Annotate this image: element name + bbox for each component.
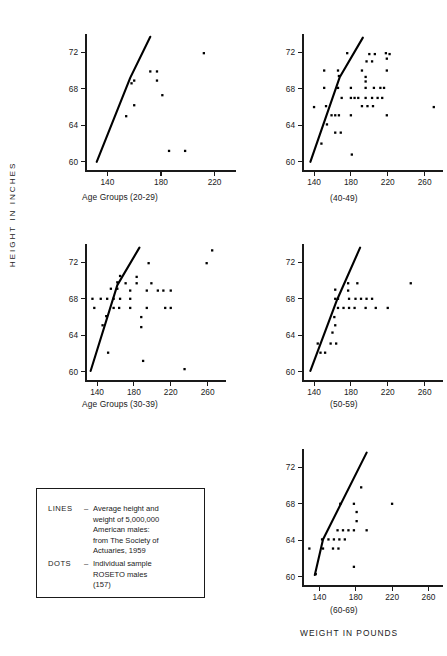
panel-40-49-ytick-label-68: 68	[286, 84, 296, 94]
panel-60-69-ytick-label-64: 64	[286, 535, 296, 545]
panel-40-49-data-point	[371, 60, 373, 62]
panel-20-29-xtick-label-220: 220	[208, 177, 222, 187]
panel-30-39-data-point	[110, 288, 112, 290]
panel-60-69-ytick-label-60: 60	[286, 572, 296, 582]
panel-60-69-data-point	[327, 538, 329, 540]
panel-40-49-data-point	[386, 69, 388, 71]
panel-30-39-data-point	[136, 282, 138, 284]
panel-50-59-axes	[303, 244, 443, 381]
panel-20-29-plot: 60646872140180220	[60, 28, 240, 193]
panel-30-39-ytick-label-60: 60	[69, 367, 79, 377]
panel-50-59-data-point	[364, 307, 366, 309]
panel-30-39-plot: 60646872140180220260	[60, 238, 230, 403]
panel-50-59-data-point	[347, 289, 349, 291]
panel-50-59-xtick-label-260: 260	[418, 387, 432, 397]
panel-30-39-data-point	[101, 324, 103, 326]
panel-40-49-data-point	[353, 97, 355, 99]
panel-60-69-data-point	[353, 566, 355, 568]
panel-40-49-data-point	[350, 114, 352, 116]
panel-50-59-data-point	[348, 298, 350, 300]
panel-30-39-ytick-label-72: 72	[69, 257, 79, 267]
panel-50-59-data-point	[331, 331, 333, 333]
panel-50-59-data-point	[348, 307, 350, 309]
panel-20-29-data-point	[125, 115, 127, 117]
panel-40-49-data-point	[381, 97, 383, 99]
panel-30-39-xtick-label-220: 220	[164, 387, 178, 397]
panel-30-39-data-point	[118, 307, 120, 309]
panel-40-49-data-point	[383, 87, 385, 89]
panel-60-69-ytick-label-72: 72	[286, 462, 296, 472]
panel-20-29-xtick-label-140: 140	[101, 177, 115, 187]
panel-50-59-data-point	[347, 282, 349, 284]
panel-30-39-xtick-label-180: 180	[127, 387, 141, 397]
panel-40-49-data-point	[368, 53, 370, 55]
panel-30-39-data-point	[140, 316, 142, 318]
panel-60-69-data-point	[332, 547, 334, 549]
panel-40-49-data-point	[433, 106, 435, 108]
panel-caption-50-59: (50-59)	[330, 399, 358, 409]
panel-40-49-data-point	[388, 53, 390, 55]
panel-40-49-data-point	[337, 69, 339, 71]
panel-50-59-data-point	[317, 342, 319, 344]
legend-lines-text: Average height and weight of 5,000,000 A…	[93, 504, 159, 557]
panel-30-39-data-point	[129, 307, 131, 309]
panel-60-69-data-point	[308, 547, 310, 549]
panel-60-69-data-point	[333, 538, 335, 540]
panel-30-39-data-point	[206, 262, 208, 264]
panel-40-49-data-point	[350, 97, 352, 99]
panel-40-49-xtick-label-260: 260	[418, 177, 432, 187]
panel-40-49-ytick-label-72: 72	[286, 47, 296, 57]
panel-40-49-data-point	[325, 105, 327, 107]
panel-30-39-data-point	[100, 298, 102, 300]
legend-dots-text: Individual sample ROSETO males (157)	[93, 559, 152, 591]
legend-lines-line-5: Actuaries, 1959	[93, 546, 159, 557]
legend-box: LINES – Average height and weight of 5,0…	[36, 488, 205, 598]
panel-30-39-data-point	[157, 289, 159, 291]
panel-40-49-xtick-label-220: 220	[381, 177, 395, 187]
legend-lines-line-3: American males:	[93, 525, 159, 536]
panel-60-69-xtick-label-260: 260	[422, 592, 436, 602]
panel-40-49-data-point	[386, 114, 388, 116]
panel-30-39-data-point	[107, 352, 109, 354]
panel-50-59-data-point	[333, 316, 335, 318]
panel-40-49-regression-line	[310, 38, 363, 162]
panel-40-49-data-point	[357, 97, 359, 99]
panel-50-59-data-point	[375, 307, 377, 309]
panel-60-69-data-point	[353, 529, 355, 531]
panel-30-39-data-point	[170, 289, 172, 291]
panel-50-59-data-point	[353, 307, 355, 309]
panel-40-49-data-point	[337, 87, 339, 89]
legend-dots-line-2: ROSETO males	[93, 570, 152, 581]
panel-40-49: 60646872140180220260	[277, 28, 447, 193]
panel-caption-30-39: Age Groups (30-39)	[82, 399, 158, 409]
panel-60-69-axes	[303, 449, 443, 586]
panel-40-49-ytick-label-64: 64	[286, 120, 296, 130]
panel-40-49-data-point	[374, 53, 376, 55]
panel-caption-60-69: (60-69)	[330, 605, 358, 615]
panel-50-59-data-point	[365, 298, 367, 300]
legend-dots-key: DOTS	[48, 559, 84, 591]
legend-lines-line-1: Average height and	[93, 504, 159, 515]
figure-root: HEIGHT IN INCHES 60646872140180220 Age G…	[0, 0, 447, 656]
panel-40-49-data-point	[364, 76, 366, 78]
panel-30-39-data-point	[93, 307, 95, 309]
panel-50-59-data-point	[342, 307, 344, 309]
panel-caption-40-49: (40-49)	[330, 193, 358, 203]
panel-20-29-data-point	[156, 70, 158, 72]
panel-60-69: 60646872140180220260	[277, 443, 447, 608]
panel-50-59-plot: 60646872140180220260	[277, 238, 447, 403]
panel-40-49-data-point	[364, 87, 366, 89]
panel-40-49-ytick-label-60: 60	[286, 157, 296, 167]
panel-30-39-ytick-label-68: 68	[69, 294, 79, 304]
panel-50-59-data-point	[334, 324, 336, 326]
panel-50-59-data-point	[360, 298, 362, 300]
panel-40-49-data-point	[385, 52, 387, 54]
panel-40-49-data-point	[361, 69, 363, 71]
panel-60-69-data-point	[344, 538, 346, 540]
panel-60-69-data-point	[338, 538, 340, 540]
panel-40-49-xtick-label-140: 140	[307, 177, 321, 187]
panel-30-39-data-point	[106, 298, 108, 300]
y-axis-label-text: HEIGHT IN INCHES	[9, 161, 18, 267]
panel-40-49-data-point	[330, 114, 332, 116]
panel-50-59: 60646872140180220260	[277, 238, 447, 403]
